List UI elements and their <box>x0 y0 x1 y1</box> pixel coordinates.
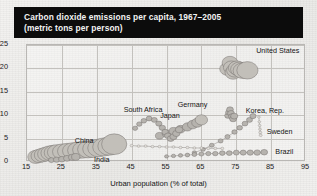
series-trail <box>225 107 238 122</box>
data-bubble <box>258 116 261 118</box>
data-bubble <box>218 139 223 143</box>
x-tick-label: 25 <box>51 163 71 171</box>
series-label: India <box>94 156 110 164</box>
data-bubble <box>247 150 253 155</box>
y-tick-label: 0 <box>0 157 8 165</box>
series-label: Korea, Rep. <box>246 107 284 115</box>
data-bubble <box>133 126 138 130</box>
data-bubble <box>141 119 147 124</box>
series-trail <box>220 56 258 79</box>
data-bubble <box>261 149 268 155</box>
y-tick-label: 25 <box>0 40 8 48</box>
data-bubble <box>259 128 262 130</box>
series-layer <box>27 45 306 162</box>
x-axis-title: Urban population (% of total) <box>0 179 317 188</box>
data-bubble <box>102 134 127 155</box>
data-bubble <box>259 131 262 133</box>
data-bubble <box>193 147 196 149</box>
data-bubble <box>254 150 261 155</box>
x-tick-label: 95 <box>295 163 315 171</box>
data-bubble <box>137 145 140 147</box>
plot-area <box>26 44 305 161</box>
data-bubble <box>242 121 248 126</box>
x-tick-label: 65 <box>190 163 210 171</box>
data-bubble <box>200 147 203 149</box>
y-tick-label: 10 <box>0 110 8 118</box>
series-label: Germany <box>178 101 208 109</box>
data-bubble <box>151 145 154 147</box>
chart-title-line2: (metric tons per person) <box>24 23 123 33</box>
data-bubble <box>237 62 258 79</box>
data-bubble <box>214 147 217 149</box>
data-bubble <box>232 130 237 134</box>
x-tick-label: 15 <box>16 163 36 171</box>
x-tick-label: 85 <box>260 163 280 171</box>
data-bubble <box>178 154 182 158</box>
y-tick-label: 20 <box>0 63 8 71</box>
data-bubble <box>186 146 189 148</box>
data-bubble <box>233 150 239 155</box>
data-bubble <box>172 146 175 148</box>
series-trail <box>165 149 268 158</box>
data-bubble <box>72 153 80 160</box>
x-tick-label: 75 <box>225 163 245 171</box>
x-tick-label: 55 <box>156 163 176 171</box>
series-label: South Africa <box>124 106 163 114</box>
series-label: China <box>75 137 94 145</box>
data-bubble <box>175 127 183 133</box>
data-bubble <box>195 115 207 125</box>
chart-figure: Carbon dioxide emissions per capita, 196… <box>0 0 317 196</box>
x-tick-label: 35 <box>86 163 106 171</box>
series-label: Sweden <box>267 128 293 136</box>
data-bubble <box>192 153 197 157</box>
data-bubble <box>258 124 261 126</box>
data-bubble <box>240 150 246 155</box>
data-bubble <box>226 151 232 156</box>
data-bubble <box>137 122 142 126</box>
data-bubble <box>158 145 161 147</box>
series-label: Japan <box>160 112 180 120</box>
chart-title-line1: Carbon dioxide emissions per capita, 196… <box>24 12 221 22</box>
series-trail <box>258 116 263 137</box>
chart-title-bar: Carbon dioxide emissions per capita, 196… <box>14 7 303 38</box>
series-label: Brazil <box>275 148 293 156</box>
data-bubble <box>237 126 243 131</box>
data-bubble <box>130 144 133 146</box>
data-bubble <box>258 121 261 123</box>
data-bubble <box>165 146 168 148</box>
y-tick-label: 5 <box>0 134 8 142</box>
data-bubble <box>221 147 224 149</box>
data-bubble <box>144 145 147 147</box>
data-bubble <box>220 151 226 156</box>
series-label: United States <box>256 47 299 55</box>
y-tick-label: 15 <box>0 87 8 95</box>
data-bubble <box>199 152 204 156</box>
data-bubble <box>213 151 218 155</box>
data-bubble <box>207 147 210 149</box>
data-bubble <box>225 135 230 139</box>
data-bubble <box>206 151 211 155</box>
data-bubble <box>209 143 214 147</box>
x-tick-label: 45 <box>121 163 141 171</box>
data-bubble <box>231 113 238 119</box>
data-bubble <box>179 146 182 148</box>
data-bubble <box>185 153 190 157</box>
data-bubble <box>171 154 175 157</box>
data-bubble <box>259 134 262 136</box>
data-bubble <box>165 155 169 158</box>
